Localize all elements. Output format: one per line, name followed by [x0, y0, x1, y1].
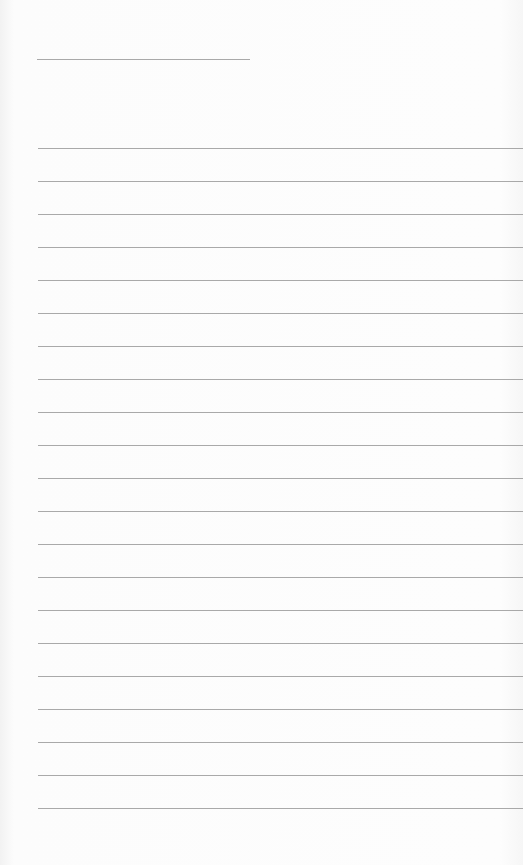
title-underline [37, 59, 250, 60]
ruled-line [38, 643, 523, 644]
ruled-line [38, 577, 523, 578]
ruled-line [38, 379, 523, 380]
ruled-line [38, 214, 523, 215]
ruled-line [38, 676, 523, 677]
ruled-line [38, 478, 523, 479]
ruled-line [38, 511, 523, 512]
ruled-line [38, 709, 523, 710]
ruled-line [38, 346, 523, 347]
ruled-line [38, 412, 523, 413]
ruled-line [38, 808, 523, 809]
ruled-line [38, 247, 523, 248]
ruled-line [38, 610, 523, 611]
ruled-line [38, 148, 523, 149]
ruled-line [38, 775, 523, 776]
ruled-line [38, 313, 523, 314]
lined-paper-sheet [0, 0, 523, 865]
ruled-line [38, 280, 523, 281]
ruled-line [38, 445, 523, 446]
ruled-line [38, 742, 523, 743]
ruled-line [38, 544, 523, 545]
ruled-line [38, 181, 523, 182]
